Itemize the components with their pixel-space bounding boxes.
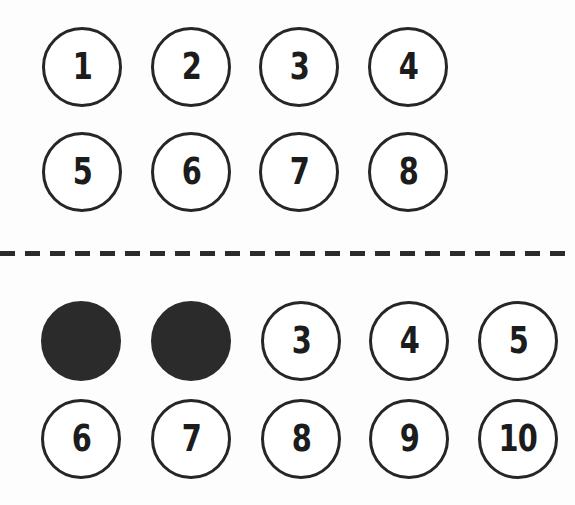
numbered-circle[interactable]: 8 bbox=[261, 399, 341, 479]
circle-number-label: 5 bbox=[72, 153, 91, 190]
worksheet-canvas: 12345678 12345678910 bbox=[0, 0, 575, 505]
circle-row: 5678 bbox=[0, 0, 575, 82]
circle-number-label: 10 bbox=[499, 420, 538, 457]
circle-number-label: 8 bbox=[291, 420, 310, 457]
numbered-circle[interactable]: 10 bbox=[478, 399, 558, 479]
numbered-circle[interactable]: 7 bbox=[151, 399, 231, 479]
circle-row: 678910 bbox=[0, 288, 575, 370]
circle-number-label: 6 bbox=[181, 153, 200, 190]
circle-number-label: 7 bbox=[289, 153, 308, 190]
circle-number-label: 7 bbox=[181, 420, 200, 457]
circle-number-label: 9 bbox=[399, 420, 418, 457]
numbered-circle[interactable]: 6 bbox=[41, 399, 121, 479]
numbered-circle[interactable]: 6 bbox=[151, 132, 231, 212]
numbered-circle[interactable]: 9 bbox=[369, 399, 449, 479]
circle-number-label: 6 bbox=[71, 420, 90, 457]
circle-group-top: 12345678 bbox=[0, 0, 575, 245]
numbered-circle[interactable]: 8 bbox=[368, 132, 448, 212]
numbered-circle[interactable]: 5 bbox=[42, 132, 122, 212]
circle-number-label: 8 bbox=[398, 153, 417, 190]
numbered-circle[interactable]: 7 bbox=[259, 132, 339, 212]
dashed-line bbox=[0, 251, 575, 256]
circle-group-bottom: 12345678910 bbox=[0, 288, 575, 505]
horizontal-dashed-separator bbox=[0, 251, 575, 256]
